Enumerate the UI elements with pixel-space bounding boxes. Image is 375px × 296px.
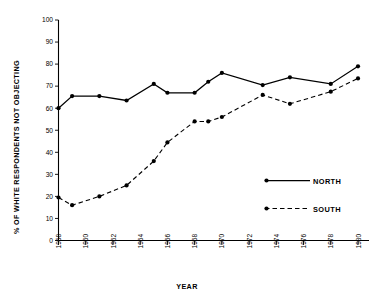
line-chart: % OF WHITE RESPONDENTS NOT OBJECTING 010… bbox=[0, 0, 375, 296]
x-tick-label: 1980 bbox=[355, 233, 362, 248]
y-tick-label: 0 bbox=[49, 237, 53, 244]
x-tick-label: 1972 bbox=[246, 233, 253, 248]
data-point bbox=[220, 71, 224, 75]
data-point bbox=[152, 82, 156, 86]
series-markers-north bbox=[56, 64, 360, 110]
y-tick-label: 20 bbox=[46, 193, 54, 200]
data-point bbox=[220, 115, 224, 119]
y-tick-label: 10 bbox=[46, 215, 54, 222]
data-point bbox=[356, 76, 360, 80]
data-point bbox=[193, 91, 197, 95]
x-tick-label: 1968 bbox=[191, 233, 198, 248]
legend: NORTH SOUTH bbox=[264, 177, 341, 214]
legend-entry-south: SOUTH bbox=[264, 205, 340, 214]
series-line-north bbox=[59, 66, 359, 108]
data-point bbox=[124, 98, 128, 102]
series-line-south bbox=[59, 78, 359, 205]
legend-marker-south bbox=[264, 206, 268, 210]
x-tick-label: 1964 bbox=[137, 233, 144, 248]
data-point bbox=[56, 195, 60, 199]
y-tick-label: 50 bbox=[46, 127, 54, 134]
x-axis-label: YEAR bbox=[176, 282, 198, 291]
x-tick-label: 1970 bbox=[218, 233, 225, 248]
legend-entry-north: NORTH bbox=[264, 177, 341, 186]
legend-marker-north bbox=[264, 178, 268, 182]
data-point bbox=[206, 119, 210, 123]
chart-container: % OF WHITE RESPONDENTS NOT OBJECTING 010… bbox=[0, 0, 375, 296]
data-point bbox=[288, 75, 292, 79]
data-point bbox=[152, 159, 156, 163]
y-tick-label: 30 bbox=[46, 171, 54, 178]
data-point bbox=[329, 90, 333, 94]
y-axis-label: % OF WHITE RESPONDENTS NOT OBJECTING bbox=[12, 60, 21, 234]
data-point bbox=[165, 91, 169, 95]
data-point bbox=[70, 94, 74, 98]
data-point bbox=[97, 194, 101, 198]
y-tick-label: 100 bbox=[42, 16, 53, 23]
x-tick-label: 1962 bbox=[110, 233, 117, 248]
x-axis-ticks bbox=[59, 241, 359, 246]
legend-label-south: SOUTH bbox=[313, 205, 341, 214]
y-tick-label: 80 bbox=[46, 60, 54, 67]
data-point bbox=[70, 203, 74, 207]
x-tick-label: 1960 bbox=[82, 233, 89, 248]
data-point bbox=[124, 183, 128, 187]
data-point bbox=[261, 83, 265, 87]
data-point bbox=[261, 93, 265, 97]
data-point bbox=[288, 102, 292, 106]
data-point bbox=[356, 64, 360, 68]
x-tick-label: 1958 bbox=[55, 233, 62, 248]
y-tick-label: 70 bbox=[46, 82, 54, 89]
data-point bbox=[165, 140, 169, 144]
x-tick-label: 1966 bbox=[164, 233, 171, 248]
data-point bbox=[329, 82, 333, 86]
x-tick-label: 1976 bbox=[300, 233, 307, 248]
y-tick-label: 60 bbox=[46, 105, 54, 112]
x-tick-label: 1978 bbox=[327, 233, 334, 248]
data-point bbox=[193, 119, 197, 123]
data-point bbox=[56, 106, 60, 110]
x-tick-label: 1974 bbox=[273, 233, 280, 248]
y-axis-tick-labels: 0102030405060708090100 bbox=[42, 16, 53, 244]
legend-label-north: NORTH bbox=[313, 177, 341, 186]
y-tick-label: 90 bbox=[46, 38, 54, 45]
data-point bbox=[206, 80, 210, 84]
data-point bbox=[97, 94, 101, 98]
y-tick-label: 40 bbox=[46, 149, 54, 156]
